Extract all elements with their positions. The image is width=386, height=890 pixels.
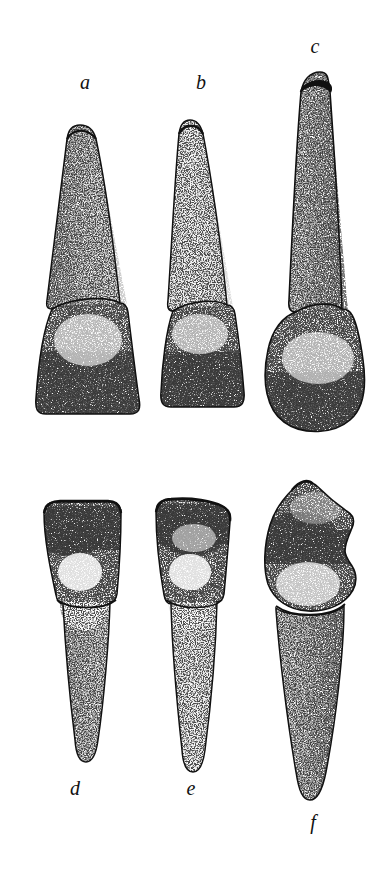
plate-drawing: [0, 0, 386, 890]
figure-label-a: a: [70, 72, 100, 92]
specimen-b: [155, 120, 250, 410]
specimen-f: [262, 481, 362, 800]
specimen-a: [30, 125, 150, 418]
tooth-illustration-plate: a b c d e f: [0, 0, 386, 890]
specimen-c: [262, 72, 372, 436]
specimen-e: [152, 498, 234, 772]
figure-label-e: e: [176, 778, 206, 798]
figure-label-f: f: [298, 812, 328, 832]
figure-label-b: b: [186, 72, 216, 92]
specimen-d: [40, 501, 126, 762]
figure-label-c: c: [300, 36, 330, 56]
figure-label-d: d: [60, 778, 90, 798]
